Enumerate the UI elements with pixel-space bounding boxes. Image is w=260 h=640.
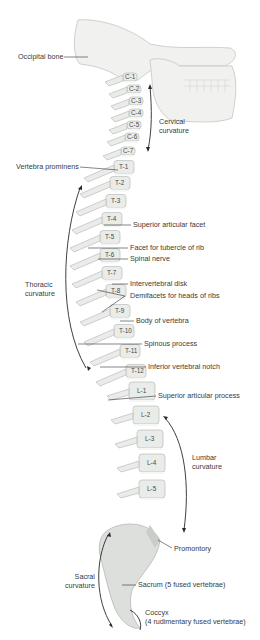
spinous-process-shape	[72, 271, 102, 288]
label-coccyx: Coccyx (4 rudimentary fused vertebrae)	[145, 608, 246, 626]
vertebra-label-c-4: C-4	[131, 109, 141, 116]
intervertebral-disk-shape	[130, 117, 142, 119]
vertebra-label-c-6: C-6	[127, 133, 137, 140]
label-vertebra-prominens: Vertebra prominens	[16, 163, 79, 171]
label-intervertebral-disk: Intervertebral disk	[130, 280, 187, 288]
label-lumbar-curvature: Lumbar curvature	[192, 453, 222, 471]
spinous-process-shape	[70, 253, 100, 270]
arrowhead	[163, 416, 168, 420]
label-occipital-bone: Occipital bone	[18, 53, 64, 61]
intervertebral-disk-shape	[101, 244, 119, 246]
spinous-process-shape	[109, 87, 127, 98]
intervertebral-disk-shape	[140, 472, 164, 474]
vertebra-label-c-2: C-2	[129, 85, 139, 92]
vertebra-label-l-4: L-4	[147, 459, 156, 466]
vertebra-label-l-2: L-2	[141, 411, 150, 418]
vertebra-label-c-7: C-7	[123, 147, 133, 154]
spinous-process-shape	[80, 181, 110, 198]
intervertebral-disk-shape	[103, 226, 121, 228]
vertebra-label-t-5: T-5	[105, 233, 114, 240]
spinous-process-shape	[111, 99, 129, 110]
vertebra-label-l-5: L-5	[147, 485, 156, 492]
vertebra-label-t-1: T-1	[119, 163, 128, 170]
intervertebral-disk-shape	[134, 424, 158, 426]
label-spinal-nerve: Spinal nerve	[130, 255, 170, 263]
spinous-process-shape	[107, 135, 125, 146]
spinous-process-shape	[80, 309, 110, 326]
arrowhead	[146, 147, 150, 152]
vertebra-label-t-2: T-2	[115, 179, 124, 186]
spinous-process-shape	[70, 235, 100, 252]
label-cervical-curvature: Cervical curvature	[159, 117, 189, 135]
intervertebral-disk-shape	[121, 358, 139, 360]
cervical-curvature-arrow	[148, 86, 151, 150]
spinous-process-shape	[76, 289, 106, 306]
label-sacrum: Sacrum (5 fused vertebrae)	[138, 581, 226, 589]
intervertebral-disk-shape	[103, 280, 121, 282]
label-facet-tubercle: Facet for tubercle of rib	[130, 244, 204, 252]
intervertebral-disk-shape	[122, 155, 134, 157]
vertebra-label-c-5: C-5	[129, 121, 139, 128]
spinous-process-shape	[111, 413, 133, 424]
spinous-process-shape	[84, 329, 114, 346]
vertebra-label-c-3: C-3	[131, 97, 141, 104]
label-demifacets: Demifacets for heads of ribs	[130, 292, 219, 300]
vertebra-label-t-7: T-7	[107, 269, 116, 276]
intervertebral-disk-shape	[111, 190, 129, 192]
spine-illustration	[0, 0, 260, 640]
mandible	[150, 59, 236, 122]
intervertebral-disk-shape	[126, 141, 138, 143]
intervertebral-disk-shape	[124, 81, 136, 83]
arrowhead	[78, 185, 82, 190]
leader-promontory	[158, 540, 172, 548]
vertebra-label-t-12: T-12	[131, 367, 144, 374]
intervertebral-disk-shape	[115, 338, 133, 340]
intervertebral-disk-shape	[130, 105, 142, 107]
vertebra-label-l-1: L-1	[137, 387, 146, 394]
label-spinous-process: Spinous process	[144, 340, 197, 348]
spinous-process-shape	[111, 111, 129, 122]
lumbar-curvature-arrow	[165, 418, 186, 530]
spinous-process-shape	[76, 199, 106, 216]
spinous-process-shape	[117, 461, 139, 472]
label-sacral-curvature: Sacral curvature	[65, 572, 95, 590]
vertebra-label-t-9: T-9	[115, 307, 124, 314]
label-promontory: Promontory	[174, 545, 211, 553]
intervertebral-disk-shape	[128, 129, 140, 131]
intervertebral-disk-shape	[127, 378, 145, 380]
intervertebral-disk-shape	[128, 93, 140, 95]
intervertebral-disk-shape	[107, 208, 125, 210]
vertebra-label-t-10: T-10	[119, 327, 132, 334]
arrowhead	[87, 366, 91, 371]
vertebra-label-c-1: C-1	[125, 73, 135, 80]
vertebra-label-t-11: T-11	[125, 347, 137, 354]
label-inferior-vertebral-notch: Inferior vertebral notch	[148, 363, 220, 371]
vertebra-label-t-8: T-8	[111, 287, 120, 294]
vertebra-label-t-3: T-3	[111, 197, 120, 204]
intervertebral-disk-shape	[111, 318, 129, 320]
spinous-process-shape	[72, 217, 102, 234]
label-superior-articular-facet: Superior articular facet	[133, 221, 205, 229]
intervertebral-disk-shape	[130, 400, 154, 402]
spinous-process-shape	[117, 487, 139, 498]
arrowhead	[148, 84, 152, 89]
label-thoracic-curvature: Thoracic curvature	[25, 280, 55, 298]
intervertebral-disk-shape	[140, 498, 164, 500]
intervertebral-disk-shape	[115, 174, 133, 176]
intervertebral-disk-shape	[138, 448, 162, 450]
arrowhead	[182, 528, 186, 533]
intervertebral-disk-shape	[101, 262, 119, 264]
spinous-process-shape	[90, 349, 120, 366]
label-body-of-vertebra: Body of vertebra	[136, 317, 189, 325]
spinous-process-shape	[103, 149, 121, 160]
vertebra-label-t-4: T-4	[107, 215, 116, 222]
skull	[74, 20, 235, 122]
spinous-process-shape	[96, 369, 126, 386]
spinous-process-shape	[109, 123, 127, 134]
spinous-process-shape	[105, 75, 123, 86]
arrowhead	[109, 623, 113, 628]
vertebra-label-t-6: T-6	[105, 251, 114, 258]
vertebra-label-l-3: L-3	[145, 435, 154, 442]
spinous-process-shape	[115, 437, 137, 448]
label-superior-articular-process: Superior articular process	[158, 392, 240, 400]
